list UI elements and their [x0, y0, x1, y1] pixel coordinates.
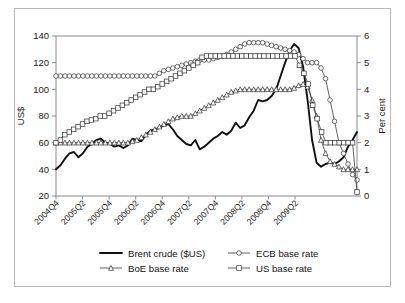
circle-marker — [103, 74, 108, 79]
right-axis-title: Per cent — [376, 98, 387, 134]
square-marker — [337, 140, 342, 145]
square-marker — [178, 71, 183, 76]
x-axis-tick-label: 2009Q2 — [271, 198, 300, 227]
circle-marker — [153, 74, 158, 79]
circle-marker — [144, 74, 149, 79]
square-marker — [160, 82, 165, 87]
square-marker — [306, 82, 311, 87]
triangle-marker — [323, 151, 328, 156]
circle-marker — [94, 74, 99, 79]
square-marker — [204, 54, 209, 59]
x-axis-tick-label: 2007Q4 — [192, 198, 221, 227]
square-marker — [85, 119, 90, 124]
square-marker — [328, 140, 333, 145]
square-marker — [111, 108, 116, 113]
legend-entry: ECB base rate — [228, 248, 318, 259]
circle-marker — [305, 60, 310, 65]
square-marker — [310, 103, 315, 108]
x-axis-tick-label: 2008Q2 — [218, 198, 247, 227]
circle-marker — [310, 60, 315, 65]
circle-marker — [126, 74, 131, 79]
x-axis-tick-label: 2005Q2 — [59, 198, 88, 227]
right-axis-tick-label: 5 — [364, 57, 369, 68]
circle-marker — [63, 74, 68, 79]
circle-marker — [283, 47, 288, 52]
square-marker — [191, 63, 196, 68]
square-marker — [156, 84, 161, 89]
square-marker — [129, 98, 134, 103]
square-marker — [341, 140, 346, 145]
circle-marker — [121, 74, 126, 79]
square-marker — [333, 140, 338, 145]
x-axis-tick-label: 2004Q4 — [32, 198, 61, 227]
circle-marker — [139, 74, 144, 79]
circle-marker — [112, 74, 117, 79]
square-marker — [58, 138, 63, 143]
circle-marker — [346, 162, 351, 167]
circle-marker — [85, 74, 90, 79]
square-marker — [231, 54, 236, 59]
square-marker — [173, 74, 178, 79]
circle-marker — [287, 48, 292, 53]
circle-marker — [166, 67, 171, 72]
triangle-marker — [328, 159, 333, 164]
circle-marker — [269, 43, 274, 48]
square-marker — [54, 140, 59, 145]
line-chart-svg: 204060801001201400123456US$Per cent2004Q… — [0, 0, 405, 303]
square-marker — [222, 54, 227, 59]
circle-marker — [99, 74, 104, 79]
circle-marker — [171, 66, 176, 71]
left-axis-tick-label: 120 — [33, 57, 49, 68]
square-marker — [346, 140, 351, 145]
right-axis-tick-label: 2 — [364, 137, 369, 148]
series-ecb-base-rate — [54, 40, 360, 182]
square-marker — [324, 140, 329, 145]
square-marker — [213, 54, 218, 59]
circle-marker — [265, 42, 270, 47]
circle-marker — [247, 40, 252, 45]
legend-entry: BoE base rate — [100, 263, 189, 274]
x-axis-tick-label: 2005Q4 — [85, 198, 114, 227]
square-marker — [266, 54, 271, 59]
circle-marker — [58, 74, 63, 79]
square-marker — [80, 122, 85, 127]
square-marker — [235, 54, 240, 59]
square-marker — [94, 116, 99, 121]
circle-marker — [162, 68, 167, 73]
circle-marker — [135, 74, 140, 79]
circle-marker — [54, 74, 59, 79]
series-boe-base-rate — [54, 81, 360, 171]
square-marker — [151, 87, 156, 92]
circle-marker — [260, 40, 265, 45]
square-marker — [142, 90, 147, 95]
left-axis-tick-label: 80 — [38, 110, 49, 121]
square-marker — [138, 92, 143, 97]
triangle-marker — [319, 137, 324, 142]
legend-square-marker — [237, 266, 242, 271]
left-axis-tick-label: 40 — [38, 164, 49, 175]
x-axis-tick-label: 2007Q2 — [165, 198, 194, 227]
square-marker — [284, 54, 289, 59]
square-marker — [315, 116, 320, 121]
circle-marker — [332, 119, 337, 124]
square-marker — [355, 190, 360, 195]
square-marker — [262, 54, 267, 59]
left-axis-tick-label: 100 — [33, 84, 49, 95]
circle-marker — [238, 44, 243, 49]
circle-marker — [256, 40, 261, 45]
square-marker — [257, 54, 262, 59]
series-line — [56, 84, 357, 169]
square-marker — [248, 54, 253, 59]
circle-marker — [233, 47, 238, 52]
circle-marker — [148, 74, 153, 79]
circle-marker — [314, 60, 319, 65]
chart-figure: 204060801001201400123456US$Per cent2004Q… — [0, 0, 405, 303]
legend-entry: Brent crude ($US) — [100, 248, 205, 259]
square-marker — [133, 95, 138, 100]
legend-label: US base rate — [256, 263, 312, 274]
legend-circle-marker — [237, 251, 242, 256]
circle-marker — [76, 74, 81, 79]
x-axis-tick-label: 2006Q2 — [112, 198, 141, 227]
circle-marker — [274, 44, 279, 49]
plot-container: 204060801001201400123456US$Per cent2004Q… — [0, 0, 405, 303]
